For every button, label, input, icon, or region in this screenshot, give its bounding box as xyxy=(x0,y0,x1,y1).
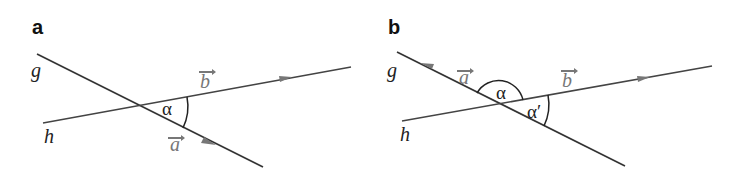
panel-b-label: b xyxy=(388,16,400,38)
line-h xyxy=(43,67,351,123)
line-g xyxy=(37,54,263,167)
panel-a: a g h b a α xyxy=(31,16,351,167)
angle-alpha-arc xyxy=(183,97,188,128)
vector-a-label: a xyxy=(459,66,469,88)
line-g xyxy=(397,52,625,166)
line-h-label: h xyxy=(44,125,54,147)
vector-b-label: b xyxy=(200,70,210,92)
vector-b-label: b xyxy=(562,69,572,91)
angle-alpha-label: α xyxy=(162,98,172,119)
vector-b-arrowhead-icon xyxy=(279,76,292,82)
vector-a-arrowhead-icon xyxy=(201,137,216,145)
line-g-label: g xyxy=(31,59,41,82)
panel-a-label: a xyxy=(32,16,44,38)
angle-alpha-prime-arc xyxy=(544,95,549,126)
line-g-label: g xyxy=(387,59,397,82)
vector-a-arrowhead-icon xyxy=(420,63,434,69)
line-h-label: h xyxy=(400,123,410,145)
vector-b-arrowhead-icon xyxy=(637,76,650,82)
vector-a-label: a xyxy=(170,133,180,155)
line-h xyxy=(402,66,712,121)
angle-alpha-prime-label: α′ xyxy=(527,101,541,122)
diagram-canvas: a g h b a α b g h xyxy=(0,0,744,178)
angle-alpha-label: α xyxy=(496,82,506,103)
panel-b: b g h a b α α′ xyxy=(387,16,712,166)
